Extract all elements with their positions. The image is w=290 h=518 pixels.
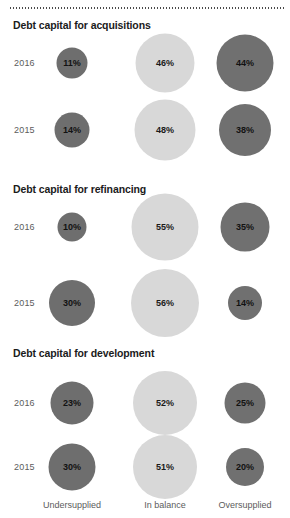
bubble-undersupplied[interactable]: 10% [58,213,87,242]
bubble-oversupplied[interactable]: 38% [219,104,271,156]
row-year-label: 2015 [14,298,35,308]
bubble-undersupplied[interactable]: 30% [49,444,96,491]
bubble-value: 38% [236,126,254,135]
bubble-value: 14% [63,126,81,135]
section-title: Debt capital for refinancing [13,183,146,195]
bubble-chart-root: Debt capital for acquisitions 2016 11% 4… [0,0,290,518]
bubble-undersupplied[interactable]: 23% [51,382,94,425]
bubble-undersupplied[interactable]: 14% [55,113,90,148]
axis-label-in-balance: In balance [144,500,186,510]
axis-label-undersupplied: Undersupplied [43,500,101,510]
bubble-value: 35% [236,223,254,232]
bubble-in-balance[interactable]: 48% [135,100,196,161]
axis-category-labels: Undersupplied In balance Oversupplied [0,500,290,516]
bubble-value: 11% [63,59,81,68]
section-title: Debt capital for acquisitions [13,19,151,31]
row-year-label: 2016 [14,222,35,232]
bubble-oversupplied[interactable]: 20% [226,448,264,486]
bubble-undersupplied[interactable]: 11% [57,48,88,79]
bubble-value: 46% [156,59,174,68]
bubble-in-balance[interactable]: 56% [131,269,199,337]
bubble-in-balance[interactable]: 55% [132,194,199,261]
bubble-value: 55% [156,223,174,232]
bubble-oversupplied[interactable]: 14% [228,286,262,320]
bubble-value: 10% [63,223,81,232]
row-year-label: 2016 [14,398,35,408]
bubble-value: 51% [156,463,174,472]
row-year-label: 2015 [14,462,35,472]
bubble-value: 20% [236,463,254,472]
bubble-value: 25% [236,399,254,408]
bubble-undersupplied[interactable]: 30% [49,280,95,326]
bubble-value: 56% [156,299,174,308]
bubble-value: 48% [156,126,174,135]
bubble-value: 30% [63,463,81,472]
axis-label-oversupplied: Oversupplied [218,500,271,510]
bubble-value: 44% [236,59,254,68]
bubble-value: 30% [63,299,81,308]
bubble-oversupplied[interactable]: 25% [225,383,266,424]
top-dotted-rule [10,7,285,9]
bubble-value: 23% [63,399,81,408]
bubble-in-balance[interactable]: 46% [136,34,195,93]
section-title: Debt capital for development [13,347,154,359]
bubble-in-balance[interactable]: 51% [133,435,197,499]
bubble-in-balance[interactable]: 52% [133,371,197,435]
bubble-value: 14% [236,299,254,308]
bubble-value: 52% [156,399,174,408]
row-year-label: 2015 [14,125,35,135]
bubble-oversupplied[interactable]: 35% [221,203,270,252]
bubble-oversupplied[interactable]: 44% [217,35,274,92]
row-year-label: 2016 [14,58,35,68]
